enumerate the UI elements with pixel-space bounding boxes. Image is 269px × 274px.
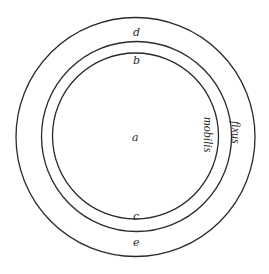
concentric-circles-diagram: d b a c e mobilis fixus (0, 0, 269, 274)
label-mobilis: mobilis (201, 117, 215, 153)
label-fixus: fixus (229, 121, 243, 144)
label-d: d (133, 26, 140, 39)
label-b: b (133, 54, 140, 67)
label-a: a (132, 131, 139, 144)
label-e: e (133, 236, 140, 249)
label-c: c (133, 210, 139, 223)
